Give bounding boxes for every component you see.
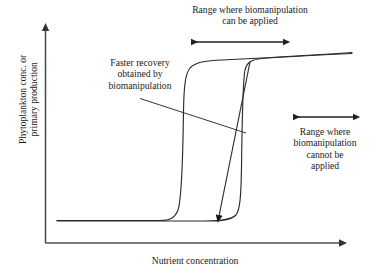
x-axis-label: Nutrient concentration [110,255,280,266]
hysteresis-figure: Range where biomanipulation can be appli… [0,0,371,278]
range-label-cannot-be-applied: Range where biomanipulation cannot be ap… [282,126,368,171]
curve-biomanipulation-shortcut [219,62,250,216]
annotation-leader-line [140,99,246,134]
curve-annotation-label: Faster recovery obtained by biomanipulat… [86,57,194,91]
range-label-can-be-applied: Range where biomanipulation can be appli… [176,4,324,27]
y-axis-label: Phytoplankton conc. or primary productio… [17,19,40,179]
